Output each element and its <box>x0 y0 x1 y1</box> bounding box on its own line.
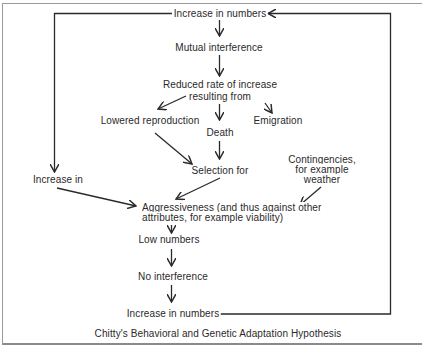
loop-line-left <box>55 14 173 173</box>
node-aggressiveness-line2: attributes, for example viability) <box>141 212 284 223</box>
arrow-selection-to-aggressiveness <box>176 178 220 199</box>
node-lowered-reproduction: Lowered reproduction <box>100 115 201 126</box>
node-reduced-rate-line2: resulting from <box>188 91 252 102</box>
node-contingencies-line3: weather <box>303 174 341 185</box>
node-low-numbers: Low numbers <box>137 234 200 245</box>
node-bottom-increase: Increase in numbers <box>126 308 221 319</box>
arrow-increasein-to-aggressiveness <box>57 188 136 206</box>
node-emigration: Emigration <box>253 115 304 126</box>
node-death: Death <box>205 127 234 138</box>
node-reduced-rate-line1: Reduced rate of increase <box>162 79 278 90</box>
node-top-increase: Increase in numbers <box>173 8 268 19</box>
node-increase-in: Increase in <box>32 174 84 185</box>
figure-caption: Chitty's Behavioral and Genetic Adaptati… <box>94 328 343 339</box>
node-no-interference: No interference <box>137 271 209 282</box>
node-selection-for: Selection for <box>191 165 250 176</box>
arrow-reduced-to-lowered <box>158 96 186 109</box>
arrow-reduced-to-emigration <box>265 103 272 113</box>
arrow-lowered-to-selection <box>155 133 192 164</box>
node-mutual-interference: Mutual interference <box>174 42 264 53</box>
